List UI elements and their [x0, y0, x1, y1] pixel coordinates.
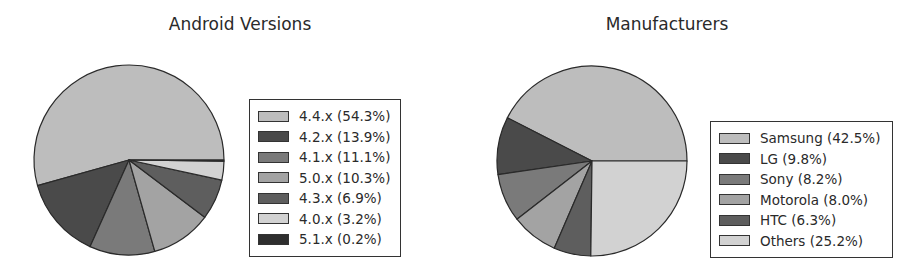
- android-versions-pie: [34, 65, 224, 255]
- legend-swatch: [258, 234, 289, 245]
- manufacturers-pie: [497, 66, 687, 256]
- legend-label: 4.2.x (13.9%): [299, 129, 390, 145]
- legend-item: 4.4.x (54.3%): [258, 106, 392, 127]
- legend-item: LG (9.8%): [719, 149, 884, 170]
- legend-label: Samsung (42.5%): [760, 130, 880, 146]
- pie-wedge-others: [591, 161, 687, 256]
- legend-swatch: [719, 133, 750, 144]
- legend-swatch: [258, 131, 289, 142]
- legend-label: Sony (8.2%): [760, 171, 843, 187]
- android-versions-legend: 4.4.x (54.3%)4.2.x (13.9%)4.1.x (11.1%)5…: [249, 99, 401, 257]
- legend-swatch: [719, 215, 750, 226]
- legend-item: Others (25.2%): [719, 231, 884, 252]
- legend-label: Others (25.2%): [760, 233, 863, 249]
- legend-item: HTC (6.3%): [719, 210, 884, 231]
- legend-label: 4.1.x (11.1%): [299, 149, 390, 165]
- legend-swatch: [258, 152, 289, 163]
- legend-item: 4.3.x (6.9%): [258, 188, 392, 209]
- legend-label: Motorola (8.0%): [760, 192, 868, 208]
- legend-item: Samsung (42.5%): [719, 128, 884, 149]
- legend-label: 4.3.x (6.9%): [299, 190, 382, 206]
- legend-swatch: [258, 193, 289, 204]
- legend-label: HTC (6.3%): [760, 212, 836, 228]
- manufacturers-legend: Samsung (42.5%)LG (9.8%)Sony (8.2%)Motor…: [710, 121, 893, 258]
- legend-item: Motorola (8.0%): [719, 190, 884, 211]
- legend-swatch: [258, 172, 289, 183]
- legend-item: 5.1.x (0.2%): [258, 229, 392, 250]
- legend-label: 4.0.x (3.2%): [299, 211, 382, 227]
- legend-label: 4.4.x (54.3%): [299, 108, 390, 124]
- legend-item: 5.0.x (10.3%): [258, 168, 392, 189]
- legend-swatch: [719, 194, 750, 205]
- legend-swatch: [719, 153, 750, 164]
- legend-label: 5.0.x (10.3%): [299, 170, 390, 186]
- legend-swatch: [258, 111, 289, 122]
- legend-swatch: [719, 174, 750, 185]
- legend-item: 4.1.x (11.1%): [258, 147, 392, 168]
- legend-label: 5.1.x (0.2%): [299, 231, 382, 247]
- legend-item: Sony (8.2%): [719, 169, 884, 190]
- legend-label: LG (9.8%): [760, 151, 827, 167]
- legend-swatch: [719, 235, 750, 246]
- legend-item: 4.2.x (13.9%): [258, 127, 392, 148]
- legend-item: 4.0.x (3.2%): [258, 209, 392, 230]
- legend-swatch: [258, 213, 289, 224]
